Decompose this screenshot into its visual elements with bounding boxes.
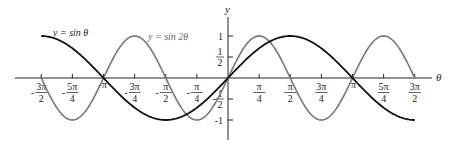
svg-text:2: 2 [218, 57, 223, 68]
svg-text:2: 2 [288, 93, 293, 104]
svg-text:-1: -1 [215, 115, 223, 126]
x-tick-label: π4- [187, 81, 203, 104]
svg-text:1: 1 [218, 46, 223, 57]
x-tick-label: 3π2 [409, 81, 421, 104]
y-tick-label: -1 [215, 115, 223, 126]
curve-label-sin-theta: y = sin θ [52, 27, 88, 38]
x-tick-label: 5π4- [62, 81, 78, 104]
svg-text:2: 2 [412, 93, 417, 104]
svg-text:-: - [124, 87, 127, 98]
svg-text:5π: 5π [67, 81, 77, 92]
x-tick-label: 3π4 [315, 81, 327, 104]
x-tick-label: π4 [253, 81, 265, 104]
svg-text:4: 4 [381, 93, 386, 104]
y-tick-label: 12 [216, 46, 224, 68]
svg-text:2: 2 [39, 93, 44, 104]
svg-text:π: π [257, 81, 262, 92]
svg-text:4: 4 [70, 93, 75, 104]
svg-text:-: - [62, 87, 65, 98]
svg-text:4: 4 [132, 93, 137, 104]
svg-text:3π: 3π [316, 81, 326, 92]
svg-text:3π: 3π [130, 81, 140, 92]
svg-text:-: - [155, 87, 158, 98]
svg-text:2: 2 [163, 93, 168, 104]
x-axis-label: θ [436, 71, 442, 83]
x-tick-label: π2 [284, 81, 296, 104]
svg-text:-: - [31, 87, 34, 98]
svg-text:-: - [187, 87, 190, 98]
y-axis-label: y [224, 3, 230, 15]
svg-text:4: 4 [257, 93, 262, 104]
svg-text:1: 1 [218, 31, 223, 42]
svg-text:4: 4 [194, 93, 199, 104]
svg-text:4: 4 [319, 93, 324, 104]
svg-text:3π: 3π [410, 81, 420, 92]
svg-text:π: π [194, 81, 199, 92]
y-tick-label: 1 [218, 31, 223, 42]
svg-text:2: 2 [218, 99, 223, 110]
x-tick-label: 5π4 [378, 81, 390, 104]
svg-text:5π: 5π [379, 81, 389, 92]
curve-label-sin-2theta: y = sin 2θ [147, 31, 188, 42]
chart: 3π2-5π4--π3π4-π2-π4-π4π23π4π5π43π2 11212… [0, 0, 454, 145]
